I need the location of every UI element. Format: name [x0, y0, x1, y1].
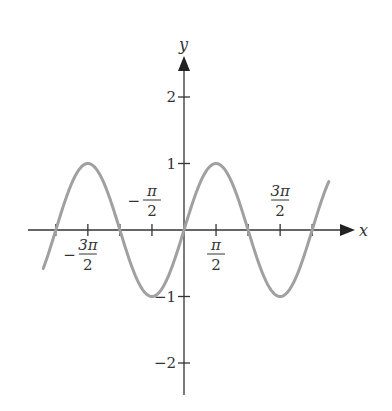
y-axis-label: y [178, 35, 189, 54]
x-tick-label: π2− [127, 182, 161, 220]
y-tick-label: 2 [166, 88, 176, 106]
x-tick-label: 3π2 [270, 182, 291, 220]
svg-text:2: 2 [147, 202, 157, 220]
svg-text:2: 2 [211, 256, 221, 274]
svg-text:−: − [127, 192, 140, 210]
axes [28, 56, 355, 395]
svg-text:−: − [63, 246, 76, 264]
y-tick-label: −1 [154, 288, 176, 306]
x-tick-label: 3π2− [63, 236, 98, 274]
sine-chart: x y 3π2−π2−π23π2 21−1−2 [0, 0, 392, 411]
x-axis-label: x [359, 221, 368, 240]
y-tick-label: 1 [166, 155, 176, 173]
y-axis-arrow-icon [178, 56, 190, 71]
svg-text:π: π [210, 236, 222, 254]
y-tick-label: −2 [154, 354, 176, 372]
x-tick-label: π2 [207, 236, 225, 274]
svg-text:3π: 3π [270, 182, 291, 200]
svg-text:2: 2 [275, 202, 285, 220]
svg-text:3π: 3π [78, 236, 99, 254]
svg-text:2: 2 [83, 256, 93, 274]
svg-text:π: π [146, 182, 158, 200]
x-axis-arrow-icon [340, 224, 355, 236]
